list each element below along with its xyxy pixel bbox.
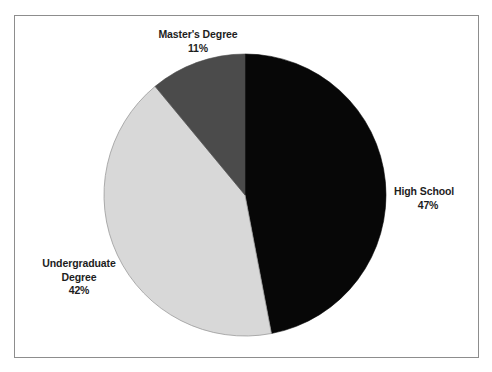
slice-label-undergraduate-degree-name-line1: Undergraduate (28, 257, 130, 271)
slice-label-undergraduate-degree-name-line2: Degree (28, 271, 130, 285)
slice-label-masters-degree-name: Master's Degree (148, 28, 248, 42)
slice-label-masters-degree: Master's Degree 11% (148, 28, 248, 55)
pie-slice-high-school[interactable] (245, 54, 386, 334)
slice-label-high-school: High School 47% (394, 185, 472, 212)
slice-label-undergraduate-degree-value: 42% (28, 284, 130, 298)
pie-svg (103, 53, 387, 337)
slice-label-masters-degree-value: 11% (148, 42, 248, 56)
slice-label-high-school-name: High School (394, 185, 472, 199)
slice-label-high-school-value: 47% (394, 199, 462, 213)
pie-chart: Master's Degree 11% High School 47% Unde… (0, 0, 492, 372)
slice-label-undergraduate-degree: Undergraduate Degree 42% (28, 257, 130, 298)
